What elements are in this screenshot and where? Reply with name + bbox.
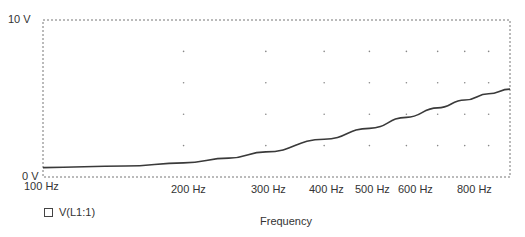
x-tick-500: 500 Hz (355, 183, 390, 195)
plot-area (0, 0, 525, 237)
legend-marker-icon (44, 208, 53, 217)
y-tick-top: 10 V (8, 13, 31, 25)
x-tick-800: 800 Hz (457, 183, 492, 195)
x-tick-200: 200 Hz (171, 183, 206, 195)
x-tick-100: 100 Hz (24, 180, 59, 192)
series-line-v-l1 (43, 89, 510, 168)
x-axis-label: Frequency (260, 215, 312, 227)
x-tick-300: 300 Hz (251, 183, 286, 195)
legend-label: V(L1:1) (59, 206, 95, 218)
x-tick-600: 600 Hz (398, 183, 433, 195)
plot-frame (43, 20, 510, 177)
grid-dots (183, 51, 490, 147)
legend: V(L1:1) (44, 206, 95, 218)
x-tick-400: 400 Hz (309, 183, 344, 195)
